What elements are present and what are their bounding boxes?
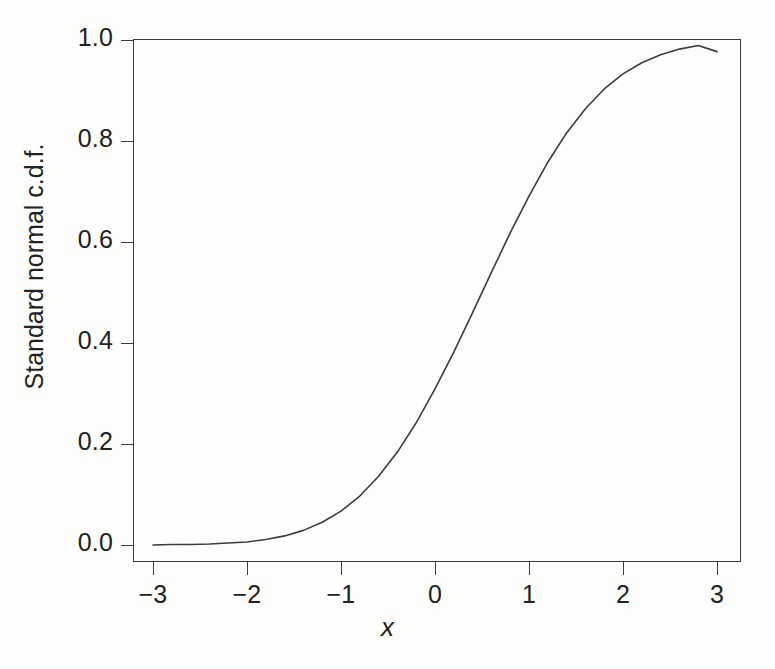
y-tick-mark <box>121 444 133 445</box>
x-tick-label: −3 <box>123 580 183 609</box>
x-tick-mark <box>623 562 624 575</box>
x-tick-label: −2 <box>217 580 277 609</box>
cdf-curve <box>133 39 741 562</box>
y-tick-label: 0.4 <box>49 326 113 355</box>
x-tick-mark <box>153 562 154 575</box>
x-axis-title: x <box>0 612 775 643</box>
x-tick-label: 3 <box>687 580 747 609</box>
x-tick-mark <box>247 562 248 575</box>
y-tick-mark <box>121 343 133 344</box>
cdf-curve-path <box>153 46 717 545</box>
y-tick-mark <box>121 545 133 546</box>
x-tick-label: 2 <box>593 580 653 609</box>
y-tick-label: 0.0 <box>49 528 113 557</box>
x-tick-mark <box>717 562 718 575</box>
x-tick-mark <box>435 562 436 575</box>
x-tick-label: 1 <box>499 580 559 609</box>
x-tick-mark <box>341 562 342 575</box>
y-tick-label: 1.0 <box>49 23 113 52</box>
y-tick-label: 0.6 <box>49 225 113 254</box>
y-tick-mark <box>121 242 133 243</box>
figure-canvas: 0.00.20.40.60.81.0 −3−2−10123 Standard n… <box>0 0 775 669</box>
y-tick-mark <box>121 40 133 41</box>
y-axis-title: Standard normal c.d.f. <box>20 87 49 447</box>
y-tick-label: 0.8 <box>49 124 113 153</box>
y-tick-mark <box>121 141 133 142</box>
x-tick-label: 0 <box>405 580 465 609</box>
x-tick-mark <box>529 562 530 575</box>
y-tick-label: 0.2 <box>49 427 113 456</box>
x-tick-label: −1 <box>311 580 371 609</box>
